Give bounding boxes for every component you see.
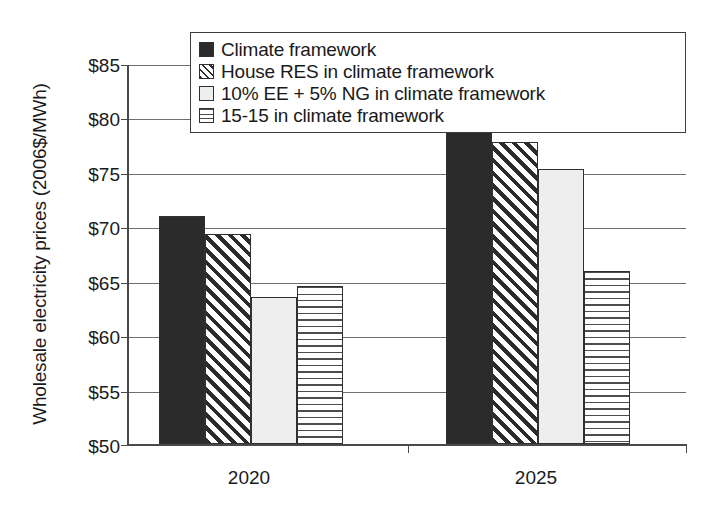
legend-swatch-light-solid-icon [199, 86, 214, 101]
bar-2025-climate-framework [446, 128, 492, 444]
y-tickmark [121, 174, 129, 175]
y-tick-label: $65 [56, 274, 120, 293]
y-tick-label: $55 [56, 383, 120, 402]
y-tickmark [121, 119, 129, 120]
y-tick-label: $70 [56, 219, 120, 238]
x-tickmark-right [686, 444, 687, 453]
x-tick-label-2020: 2020 [228, 467, 270, 489]
legend-item-climate-framework: Climate framework [199, 38, 677, 60]
y-tickmark [121, 65, 129, 66]
legend-label: 15-15 in climate framework [221, 106, 444, 125]
legend-label: 10% EE + 5% NG in climate framework [221, 84, 545, 103]
legend-label: Climate framework [221, 40, 376, 59]
x-tick-label-2025: 2025 [515, 467, 557, 489]
legend-item-ee-ng: 10% EE + 5% NG in climate framework [199, 82, 677, 104]
legend-swatch-horizontal-hatch-icon [199, 108, 214, 123]
bar-2020-15-15 [297, 286, 343, 444]
bar-2025-ee-ng [538, 169, 584, 444]
legend-swatch-solid-dark-icon [199, 42, 214, 57]
bar-chart: Wholesale electricity prices (2006$/MWh)… [0, 0, 719, 518]
y-tick-label: $80 [56, 110, 120, 129]
y-axis-tick-labels: $85 $80 $75 $70 $65 $60 $55 $50 [52, 0, 120, 518]
legend-swatch-diagonal-hatch-icon [199, 64, 214, 79]
y-tickmark [121, 337, 129, 338]
legend-item-house-res: House RES in climate framework [199, 60, 677, 82]
gridline-70 [129, 228, 686, 229]
bar-2020-ee-ng [251, 297, 297, 444]
bar-2020-house-res [205, 234, 251, 444]
y-tick-label: $85 [56, 56, 120, 75]
bar-2025-15-15 [584, 271, 630, 444]
y-tick-label: $60 [56, 328, 120, 347]
bar-2025-house-res [492, 142, 538, 444]
y-tick-label: $50 [56, 437, 120, 456]
y-tick-label: $75 [56, 165, 120, 184]
y-tickmark [121, 228, 129, 229]
chart-legend: Climate framework House RES in climate f… [190, 32, 686, 133]
legend-label: House RES in climate framework [221, 62, 494, 81]
y-tickmark [121, 392, 129, 393]
bar-2020-climate-framework [159, 216, 205, 444]
legend-item-15-15: 15-15 in climate framework [199, 104, 677, 126]
y-tickmark [121, 283, 129, 284]
y-axis-title: Wholesale electricity prices (2006$/MWh) [29, 44, 51, 464]
x-tickmark-group-divider [408, 444, 409, 453]
gridline-75 [129, 174, 686, 175]
y-tickmark [121, 445, 129, 446]
